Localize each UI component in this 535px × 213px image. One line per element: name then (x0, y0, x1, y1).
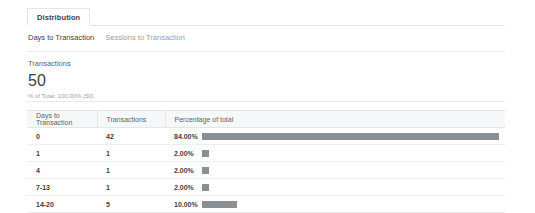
percentage-bar-group: 10.00% (174, 196, 499, 212)
percentage-bar-group: 84.00% (174, 128, 499, 144)
percentage-bar-track (202, 150, 499, 157)
primary-tab-strip: Distribution (27, 8, 505, 26)
tab-sessions-to-transaction[interactable]: Sessions to Transaction (105, 33, 185, 43)
column-header-percentage[interactable]: Percentage of total (165, 111, 505, 128)
percentage-bar-track (202, 167, 499, 174)
cell-days-to-transaction: 14-20 (27, 196, 97, 213)
table-body: 04284.00%112.00%412.00%7-1312.00%14-2051… (27, 128, 505, 213)
percentage-bar-track (202, 133, 499, 140)
metric-summary: Transactions 50 % of Total: 100.00% (50) (28, 58, 94, 101)
percentage-bar-track (202, 201, 499, 208)
distribution-table: Days to Transaction Transactions Percent… (27, 110, 505, 213)
percentage-bar-fill (202, 201, 237, 208)
metric-value: 50 (28, 71, 94, 90)
divider-above-table (27, 101, 505, 102)
cell-transactions: 1 (97, 179, 165, 196)
cell-percentage: 2.00% (165, 179, 505, 196)
metric-label: Transactions (28, 58, 94, 69)
cell-percentage: 84.00% (165, 128, 505, 145)
percentage-bar-fill (202, 133, 499, 140)
divider-above-metric (27, 51, 505, 52)
percentage-bar-fill (202, 184, 209, 191)
cell-days-to-transaction: 7-13 (27, 179, 97, 196)
cell-days-to-transaction: 0 (27, 128, 97, 145)
cell-transactions: 42 (97, 128, 165, 145)
table-header: Days to Transaction Transactions Percent… (27, 111, 505, 128)
cell-transactions: 5 (97, 196, 165, 213)
percentage-label: 2.00% (174, 184, 202, 191)
percentage-bar-group: 2.00% (174, 145, 499, 161)
percentage-bar-group: 2.00% (174, 162, 499, 178)
percentage-bar-group: 2.00% (174, 179, 499, 195)
table-row[interactable]: 412.00% (27, 162, 505, 179)
percentage-label: 2.00% (174, 150, 202, 157)
cell-percentage: 2.00% (165, 162, 505, 179)
tab-days-to-transaction-label: Days to Transaction (28, 33, 94, 42)
table-row[interactable]: 14-20510.00% (27, 196, 505, 213)
cell-percentage: 2.00% (165, 145, 505, 162)
percentage-bar-fill (202, 167, 209, 174)
table-row[interactable]: 112.00% (27, 145, 505, 162)
percentage-label: 84.00% (174, 133, 202, 140)
cell-percentage: 10.00% (165, 196, 505, 213)
secondary-tab-strip: Days to Transaction Sessions to Transact… (28, 33, 185, 43)
tab-sessions-to-transaction-label: Sessions to Transaction (105, 33, 185, 42)
cell-transactions: 1 (97, 145, 165, 162)
cell-days-to-transaction: 1 (27, 145, 97, 162)
percentage-bar-track (202, 184, 499, 191)
table-row[interactable]: 04284.00% (27, 128, 505, 145)
distribution-report-panel: Distribution Days to Transaction Session… (0, 0, 535, 213)
table-header-row: Days to Transaction Transactions Percent… (27, 111, 505, 128)
tab-days-to-transaction[interactable]: Days to Transaction (28, 33, 94, 43)
column-header-transactions[interactable]: Transactions (97, 111, 165, 128)
tab-distribution-label: Distribution (37, 13, 80, 22)
tab-distribution[interactable]: Distribution (27, 8, 90, 26)
percentage-label: 10.00% (174, 201, 202, 208)
percentage-label: 2.00% (174, 167, 202, 174)
table-row[interactable]: 7-1312.00% (27, 179, 505, 196)
column-header-days[interactable]: Days to Transaction (27, 111, 97, 128)
cell-transactions: 1 (97, 162, 165, 179)
percentage-bar-fill (202, 150, 209, 157)
cell-days-to-transaction: 4 (27, 162, 97, 179)
metric-percent-of-total: % of Total: 100.00% (50) (28, 92, 94, 101)
